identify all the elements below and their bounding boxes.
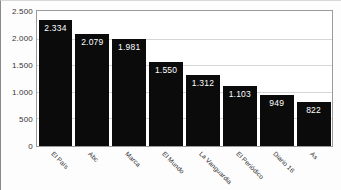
bar: 1.981 xyxy=(112,39,146,146)
bar-value-label: 1.103 xyxy=(223,89,257,99)
bar-chart-figure: 05001.0001.5002.0002.500 2.3342.0791.981… xyxy=(0,0,341,190)
x-tick-label: El País xyxy=(50,150,70,170)
x-tick-label: Marca xyxy=(124,150,142,168)
x-tick-slot: Marca xyxy=(112,148,146,190)
bar-slot: 2.334 xyxy=(39,11,73,146)
bar-value-label: 822 xyxy=(297,105,331,115)
x-tick-slot: La Vanguardia xyxy=(186,148,220,190)
bar-slot: 1.981 xyxy=(112,11,146,146)
bar-value-label: 2.079 xyxy=(75,37,109,47)
x-tick-slot: Diario 16 xyxy=(260,148,294,190)
x-axis: El PaísAbcMarcaEl MundoLa VanguardiaEl P… xyxy=(37,148,332,190)
bar-slot: 1.103 xyxy=(223,11,257,146)
x-tick-label: El Mundo xyxy=(161,150,186,175)
x-tick-label: As xyxy=(309,150,319,160)
x-tick-slot: Abc xyxy=(75,148,109,190)
bar-value-label: 1.312 xyxy=(186,78,220,88)
x-tick-slot: El País xyxy=(39,148,73,190)
bar: 1.103 xyxy=(223,86,257,146)
y-tick-label: 500 xyxy=(1,115,33,124)
x-tick-slot: El Periódico xyxy=(223,148,257,190)
y-tick-label: 1.000 xyxy=(1,88,33,97)
y-tick-label: 2.500 xyxy=(1,7,33,16)
y-tick-label: 2.000 xyxy=(1,34,33,43)
bar-value-label: 949 xyxy=(260,98,294,108)
bar-slot: 2.079 xyxy=(75,11,109,146)
y-tick-label: 1.500 xyxy=(1,61,33,70)
bar-value-label: 1.550 xyxy=(149,65,183,75)
y-axis: 05001.0001.5002.0002.500 xyxy=(1,1,33,190)
bar-value-label: 1.981 xyxy=(112,42,146,52)
bar-value-label: 2.334 xyxy=(39,23,73,33)
bars-container: 2.3342.0791.9811.5501.3121.103949822 xyxy=(37,11,332,146)
bar: 949 xyxy=(260,95,294,146)
bar: 1.312 xyxy=(186,75,220,146)
bar-slot: 822 xyxy=(297,11,331,146)
bar: 822 xyxy=(297,102,331,146)
y-tick-label: 0 xyxy=(1,142,33,151)
x-tick-label: Diario 16 xyxy=(272,150,296,174)
bar: 2.334 xyxy=(39,20,73,146)
bar-slot: 1.312 xyxy=(186,11,220,146)
bar: 1.550 xyxy=(149,62,183,146)
x-tick-label: Abc xyxy=(87,150,100,163)
x-tick-slot: As xyxy=(297,148,331,190)
bar-slot: 1.550 xyxy=(149,11,183,146)
bar-slot: 949 xyxy=(260,11,294,146)
x-tick-slot: El Mundo xyxy=(149,148,183,190)
bar: 2.079 xyxy=(75,34,109,146)
